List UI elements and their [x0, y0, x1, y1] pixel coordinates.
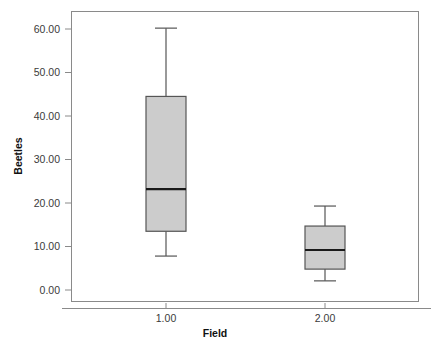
y-axis-title: Beetles — [12, 137, 24, 175]
box-iqr-rect — [146, 96, 186, 231]
x-axis-title: Field — [203, 327, 228, 339]
y-axis-ticks: 0.0010.0020.0030.0040.0050.0060.00 — [34, 23, 72, 296]
x-tick-label: 2.00 — [315, 312, 336, 324]
y-tick-label: 20.00 — [34, 197, 60, 209]
boxplot-canvas: 0.0010.0020.0030.0040.0050.0060.00 Beetl… — [0, 0, 431, 348]
y-tick-label: 30.00 — [34, 153, 60, 165]
plot-frame — [72, 12, 419, 302]
x-axis-ticks: 1.002.00 — [156, 303, 336, 324]
y-tick-label: 10.00 — [34, 240, 60, 252]
y-tick-label: 50.00 — [34, 66, 60, 78]
box-iqr-rect — [305, 226, 345, 269]
box-plot-1.00 — [146, 28, 186, 256]
box-plot-series — [146, 28, 345, 281]
boxplot-chart: 0.0010.0020.0030.0040.0050.0060.00 Beetl… — [0, 0, 431, 348]
box-plot-2.00 — [305, 206, 345, 281]
y-tick-label: 40.00 — [34, 110, 60, 122]
y-tick-label: 60.00 — [34, 23, 60, 35]
y-tick-label: 0.00 — [40, 284, 61, 296]
x-tick-label: 1.00 — [156, 312, 177, 324]
